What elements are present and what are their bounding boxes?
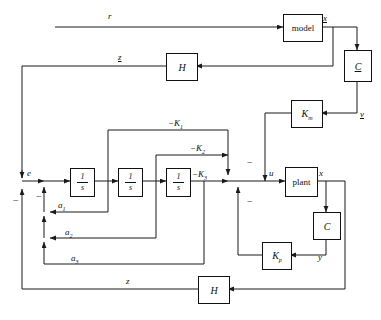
block-c-bottom-label: C bbox=[324, 221, 331, 232]
block-plant[interactable]: plant bbox=[285, 167, 318, 197]
diagram-wiring bbox=[0, 0, 381, 320]
block-c-top[interactable]: C bbox=[344, 50, 372, 82]
signal-label-x-plant: x bbox=[319, 169, 323, 178]
block-integrator-2[interactable]: 1 s bbox=[118, 168, 143, 197]
block-integrator-1[interactable]: 1 s bbox=[70, 168, 95, 197]
coeff-label-a2: a2 bbox=[65, 228, 73, 239]
signal-label-z-model: z bbox=[118, 53, 122, 62]
block-integrator-3[interactable]: 1 s bbox=[166, 168, 191, 197]
block-c-top-label: C bbox=[355, 61, 362, 72]
block-h-top-label: H bbox=[178, 62, 185, 73]
sum-sign-u-minus-top: − bbox=[247, 158, 253, 168]
coeff-label-a1: a1 bbox=[58, 201, 66, 212]
block-model[interactable]: model bbox=[283, 14, 323, 42]
signal-label-r: r bbox=[108, 12, 112, 21]
block-km-label: Km bbox=[301, 108, 312, 121]
block-h-top[interactable]: H bbox=[166, 53, 198, 81]
signal-label-x-model: x bbox=[323, 14, 327, 23]
block-km[interactable]: Km bbox=[291, 100, 323, 128]
block-model-label: model bbox=[292, 23, 315, 33]
wire-Htop-to-sum-e bbox=[22, 66, 166, 178]
block-kp-label: Kp bbox=[272, 250, 282, 263]
coeff-label-a3: a3 bbox=[71, 254, 79, 265]
integrator-1-fraction: 1 s bbox=[77, 173, 88, 192]
signal-label-z: z bbox=[126, 277, 130, 286]
wire-C-to-Km bbox=[321, 80, 357, 113]
sum-sign-u-minus-bottom: − bbox=[247, 197, 253, 207]
gain-label-k2: −K2 bbox=[190, 144, 205, 155]
signal-label-y: y bbox=[318, 253, 322, 262]
block-plant-label: plant bbox=[293, 177, 311, 187]
wire-Hbot-to-sum-e bbox=[22, 189, 198, 289]
sum-sign-a-minus: − bbox=[36, 192, 42, 202]
signal-label-e: e bbox=[27, 169, 31, 178]
block-h-bottom[interactable]: H bbox=[198, 276, 230, 304]
gain-label-k3: −K3 bbox=[192, 170, 207, 181]
signal-label-u: u bbox=[269, 169, 274, 178]
integrator-3-fraction: 1 s bbox=[173, 173, 184, 192]
gain-label-k1: −K1 bbox=[168, 119, 183, 130]
block-c-bottom[interactable]: C bbox=[313, 212, 341, 240]
signal-label-v: v bbox=[360, 110, 364, 119]
integrator-2-fraction: 1 s bbox=[125, 173, 136, 192]
block-h-bottom-label: H bbox=[210, 285, 217, 296]
block-kp[interactable]: Kp bbox=[262, 242, 292, 270]
sum-sign-e-minus: − bbox=[13, 196, 19, 206]
block-diagram-canvas: model C H Km 1 s 1 s 1 s plant C bbox=[0, 0, 381, 320]
